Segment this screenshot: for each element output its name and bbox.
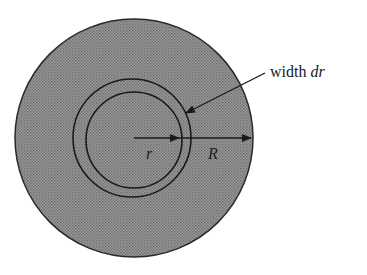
outer-radius-label: R: [207, 145, 218, 162]
inner-radius-label: r: [146, 145, 153, 162]
disk-diagram: width dr r R: [0, 0, 367, 275]
annulus-width-label: width dr: [270, 63, 325, 80]
